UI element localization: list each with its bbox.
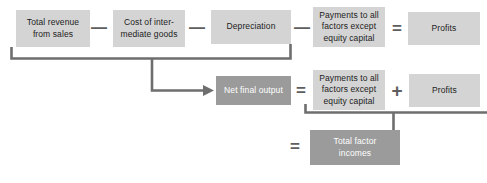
operator-minus-3: —	[295, 21, 309, 35]
box-profits-mid: Profits	[409, 74, 480, 107]
operator-equals-bottom: =	[288, 138, 302, 154]
box-cost-intermediate-goods-label: Cost of inter-mediate goods	[120, 17, 177, 40]
box-depreciation-label: Depreciation	[227, 21, 276, 33]
operator-equals-mid: =	[294, 82, 308, 98]
box-total-revenue-label: Total revenuefrom sales	[27, 17, 79, 40]
box-payments-to-factors-mid: Payments to allfactors exceptequity capi…	[313, 70, 385, 110]
box-payments-to-factors-top-label: Payments to allfactors exceptequity capi…	[319, 10, 379, 45]
arrowhead-right	[203, 85, 214, 96]
box-profits-mid-label: Profits	[432, 85, 457, 97]
branch-to-net-final-output	[152, 59, 205, 91]
box-payments-to-factors-mid-label: Payments to allfactors exceptequity capi…	[319, 73, 379, 108]
operator-plus-mid: +	[389, 81, 405, 99]
operator-minus-1: —	[92, 21, 106, 35]
operator-equals-top: =	[390, 20, 404, 36]
flow-diagram: Total revenuefrom sales — Cost of inter-…	[0, 0, 487, 183]
box-depreciation: Depreciation	[211, 10, 291, 44]
box-cost-intermediate-goods: Cost of inter-mediate goods	[113, 10, 185, 47]
box-profits-top-label: Profits	[432, 23, 457, 35]
box-total-revenue: Total revenuefrom sales	[16, 10, 90, 47]
box-net-final-output: Net final output	[216, 76, 291, 105]
box-payments-to-factors-top: Payments to allfactors exceptequity capi…	[313, 7, 385, 47]
box-net-final-output-label: Net final output	[224, 85, 283, 97]
box-total-factor-incomes-label: Total factorincomes	[334, 136, 377, 159]
operator-minus-2: —	[190, 21, 204, 35]
box-profits-top: Profits	[408, 12, 480, 45]
box-total-factor-incomes: Total factorincomes	[310, 130, 400, 165]
